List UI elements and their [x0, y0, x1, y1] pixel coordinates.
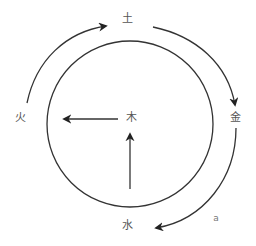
node-wood-label: 木 — [126, 112, 137, 123]
arrow-fire-to-earth — [27, 26, 106, 103]
node-earth-label: 土 — [122, 13, 133, 24]
node-water-label: 水 — [122, 220, 133, 231]
arrow-earth-to-metal — [153, 27, 235, 105]
node-metal-label: 金 — [230, 112, 241, 123]
arrow-metal-to-water — [156, 128, 236, 228]
node-fire-label: 火 — [15, 112, 26, 123]
annotation-label: a — [213, 214, 219, 223]
